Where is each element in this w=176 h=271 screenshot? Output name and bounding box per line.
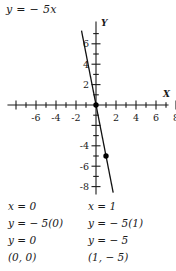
solution-column-x1: x = 1 y = − 5(1) y = − 5 (1, − 5)	[88, 198, 143, 266]
x-axis-label: X	[162, 89, 171, 99]
x-tick-label: 2	[113, 112, 119, 123]
solution-line: y = − 5(1)	[88, 215, 143, 232]
solution-line: x = 1	[88, 198, 143, 215]
y-tick-label: -4	[80, 140, 89, 151]
solution-column-x0: x = 0 y = − 5(0) y = 0 (0, 0)	[8, 198, 63, 266]
solution-line: y = 0	[8, 232, 63, 249]
x-tick-label: 4	[133, 112, 139, 123]
solution-line: y = − 5(0)	[8, 215, 63, 232]
plot-point	[93, 102, 98, 107]
y-tick-label: -6	[80, 161, 89, 172]
coordinate-graph: X Y -6-4-22468 642-4-6-8	[0, 12, 176, 197]
x-tick-label: -4	[51, 112, 60, 123]
solution-line: x = 0	[8, 198, 63, 215]
plot-point	[103, 153, 108, 158]
y-tick-label: -8	[80, 181, 89, 192]
x-tick-label: 6	[153, 112, 159, 123]
y-tick-label: 2	[83, 79, 89, 90]
x-tick-label: -2	[71, 112, 80, 123]
solution-line: y = − 5	[88, 232, 143, 249]
x-tick-label: -6	[31, 112, 40, 123]
graph-svg: X Y -6-4-22468 642-4-6-8	[0, 12, 176, 197]
solution-line: (1, − 5)	[88, 249, 143, 266]
solution-line: (0, 0)	[8, 249, 63, 266]
solution-work: x = 0 y = − 5(0) y = 0 (0, 0) x = 1 y = …	[0, 198, 176, 271]
x-tick-label: 8	[173, 112, 176, 123]
y-axis-label: Y	[101, 18, 109, 28]
x-axis-tick-labels: -6-4-22468	[31, 112, 176, 123]
